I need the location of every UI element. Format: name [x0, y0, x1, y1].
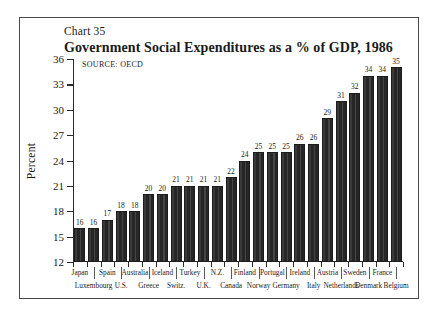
x-axis-label-separator — [176, 267, 177, 279]
bar-slot: 20 — [156, 59, 169, 262]
y-axis-tick-label: 15 — [53, 232, 64, 242]
bar — [336, 101, 347, 262]
bar-slot: 25 — [266, 59, 279, 262]
x-axis-label: Netherlands — [323, 280, 358, 292]
bar-value-label: 16 — [76, 219, 84, 227]
bar-slot: 31 — [335, 59, 348, 262]
x-axis-label: Luxembourg — [75, 280, 113, 292]
x-axis-label: Germany — [273, 280, 300, 292]
x-axis-label-separator — [286, 267, 287, 279]
bar-value-label: 26 — [310, 134, 318, 142]
bar-value-label: 18 — [117, 202, 125, 210]
x-axis-labels-top-row: JapanSpainAustraliaIcelandTurkeyN.Z.Finl… — [73, 267, 403, 280]
bar — [281, 152, 292, 262]
x-axis-label: Norway — [247, 280, 271, 292]
bar — [226, 177, 237, 262]
bar-slot: 21 — [170, 59, 183, 262]
x-axis-label-separator — [231, 267, 232, 279]
bar-value-label: 21 — [172, 176, 180, 184]
bar-slot: 16 — [73, 59, 86, 262]
x-axis-label-separator — [94, 267, 95, 279]
x-axis-label: Finland — [234, 267, 256, 279]
bar-slot: 18 — [115, 59, 128, 262]
bar — [212, 186, 223, 262]
bar-slot: 21 — [197, 59, 210, 262]
bar-slot: 34 — [376, 59, 389, 262]
bar — [129, 211, 140, 262]
bar-value-label: 25 — [269, 143, 277, 151]
bar — [349, 93, 360, 262]
x-axis-label: U.K. — [197, 280, 211, 292]
bar-value-label: 21 — [200, 176, 208, 184]
bar-slot: 34 — [362, 59, 375, 262]
x-axis-label-separator — [204, 267, 205, 279]
y-axis-tick-label: 33 — [53, 79, 64, 89]
page-title: Government Social Expenditures as a % of… — [64, 39, 393, 56]
x-axis-label: Sweden — [343, 267, 366, 279]
bar-value-label: 18 — [131, 202, 139, 210]
x-axis-label: Spain — [99, 267, 116, 279]
x-axis-label: Italy — [307, 280, 320, 292]
bar-series: 1616171818202021212121222425252526262931… — [73, 59, 403, 262]
y-axis-tick-label: 12 — [53, 257, 64, 267]
bar — [239, 161, 250, 263]
x-axis-label: Turkey — [179, 267, 200, 279]
bar — [171, 186, 182, 262]
bar-value-label: 25 — [255, 143, 263, 151]
bar-slot: 35 — [390, 59, 403, 262]
bar-value-label: 29 — [324, 109, 332, 117]
x-axis-label: Greece — [138, 280, 159, 292]
bar — [322, 118, 333, 262]
x-axis-label-separator — [121, 267, 122, 279]
bar-value-label: 21 — [214, 176, 222, 184]
bar-value-label: 17 — [104, 210, 112, 218]
bar — [88, 228, 99, 262]
y-axis-tick-label: 36 — [53, 54, 64, 64]
x-axis-label: U.S. — [115, 280, 128, 292]
bar-value-label: 21 — [186, 176, 194, 184]
bar-value-label: 24 — [241, 151, 249, 159]
bar — [184, 186, 195, 262]
x-axis-labels-bottom-row: LuxembourgU.S.GreeceSwitz.U.K.CanadaNorw… — [67, 280, 413, 293]
x-axis-label: Belgium — [384, 280, 409, 292]
bar-value-label: 26 — [296, 134, 304, 142]
y-axis-tick-label: 27 — [53, 130, 64, 140]
bar-value-label: 32 — [351, 83, 359, 91]
bar — [116, 211, 127, 262]
bar-slot: 16 — [87, 59, 100, 262]
bar — [143, 194, 154, 262]
figure-frame: Chart 35 Government Social Expenditures … — [19, 17, 419, 299]
bar — [308, 144, 319, 262]
bar-value-label: 22 — [227, 168, 235, 176]
bar — [74, 228, 85, 262]
plot-area: Percent 121518212427303336 1616171818202… — [73, 59, 403, 262]
bar-slot: 20 — [142, 59, 155, 262]
bar-value-label: 35 — [392, 58, 400, 66]
bar-slot: 21 — [211, 59, 224, 262]
bar-slot: 24 — [238, 59, 251, 262]
bar — [294, 144, 305, 262]
x-axis-label: Canada — [220, 280, 242, 292]
bar-slot: 22 — [225, 59, 238, 262]
bar-slot: 29 — [321, 59, 334, 262]
x-axis-label: Ireland — [290, 267, 311, 279]
x-axis-label-separator — [396, 267, 397, 279]
y-axis-title: Percent — [25, 142, 37, 179]
bar-value-label: 20 — [159, 185, 167, 193]
x-axis-label-separator — [369, 267, 370, 279]
bar-slot: 25 — [252, 59, 265, 262]
x-axis-label: N.Z. — [211, 267, 224, 279]
x-axis-label: Denmark — [355, 280, 382, 292]
bar-value-label: 16 — [90, 219, 98, 227]
x-axis-label: Iceland — [152, 267, 173, 279]
bar-value-label: 20 — [145, 185, 153, 193]
bar-value-label: 31 — [337, 92, 345, 100]
x-axis-label: Austria — [317, 267, 338, 279]
y-axis-tick-label: 24 — [53, 156, 64, 166]
title-block: Chart 35 Government Social Expenditures … — [64, 25, 393, 56]
x-axis-label-separator — [149, 267, 150, 279]
bar-slot: 26 — [307, 59, 320, 262]
bar — [377, 76, 388, 262]
bar — [267, 152, 278, 262]
x-axis-label-separator — [259, 267, 260, 279]
